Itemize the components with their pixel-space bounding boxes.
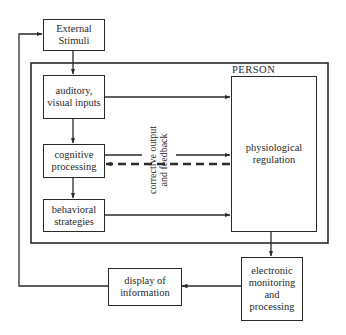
physiological-regulation-label: physiological regulation	[238, 142, 310, 166]
behavioral-strategies-box: behavioral strategies	[43, 199, 105, 232]
behavioral-strategies-label: behavioral strategies	[44, 204, 104, 228]
electronic-monitoring-label: electronic monitoring and processing	[246, 265, 298, 313]
display-of-information-box: display of information	[108, 268, 182, 306]
physiological-regulation-box: physiological regulation	[231, 76, 317, 232]
corrective-feedback-annotation: corrective output and feedback	[147, 119, 171, 201]
external-stimuli-label: External Stimuli	[44, 23, 104, 47]
person-label: PERSON	[232, 64, 275, 75]
corrective-line2: and feedback	[158, 119, 169, 201]
auditory-visual-inputs-label: auditory, visual inputs	[44, 85, 104, 109]
cognitive-processing-label: cognitive processing	[44, 149, 104, 173]
cognitive-processing-box: cognitive processing	[43, 144, 105, 178]
auditory-visual-inputs-box: auditory, visual inputs	[43, 75, 105, 119]
display-of-information-label: display of information	[115, 275, 175, 299]
external-stimuli-box: External Stimuli	[43, 19, 105, 51]
electronic-monitoring-box: electronic monitoring and processing	[241, 257, 303, 321]
corrective-line1: corrective output	[147, 119, 158, 201]
